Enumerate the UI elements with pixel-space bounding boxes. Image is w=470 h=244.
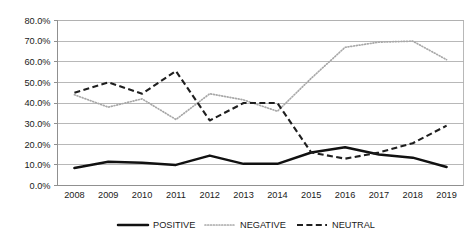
y-axis-tick-label: 50.0%: [24, 78, 50, 88]
legend-label: NEUTRAL: [332, 220, 375, 230]
chart-canvas: 0.0%10.0%20.0%30.0%40.0%50.0%60.0%70.0%8…: [0, 0, 470, 244]
x-axis-tick-label: 2012: [200, 190, 220, 200]
line-chart: 0.0%10.0%20.0%30.0%40.0%50.0%60.0%70.0%8…: [0, 0, 470, 244]
series-line-negative: [74, 41, 446, 119]
y-axis-tick-label: 0.0%: [30, 181, 51, 191]
y-axis-tick-marks: [54, 21, 58, 186]
gridlines: [58, 21, 464, 165]
y-axis-tick-label: 40.0%: [24, 98, 50, 108]
x-axis-tick-label: 2009: [98, 190, 118, 200]
chart-legend: POSITIVENEGATIVENEUTRAL: [118, 220, 375, 230]
y-axis-labels: 0.0%10.0%20.0%30.0%40.0%50.0%60.0%70.0%8…: [24, 16, 50, 191]
x-axis-tick-label: 2011: [166, 190, 186, 200]
y-axis-tick-label: 60.0%: [24, 57, 50, 67]
x-axis-tick-label: 2010: [132, 190, 152, 200]
legend-label: NEGATIVE: [240, 220, 286, 230]
y-axis-tick-label: 70.0%: [24, 36, 50, 46]
x-axis-tick-label: 2014: [267, 190, 287, 200]
legend-item-neutral[interactable]: NEUTRAL: [297, 220, 375, 230]
x-axis-tick-label: 2008: [64, 190, 84, 200]
x-axis-labels: 2008200920102011201220132014201520162017…: [64, 190, 457, 200]
series-line-neutral: [74, 71, 446, 159]
y-axis-tick-label: 20.0%: [24, 140, 50, 150]
y-axis-tick-label: 30.0%: [24, 119, 50, 129]
x-axis-tick-label: 2016: [335, 190, 355, 200]
legend-label: POSITIVE: [153, 220, 195, 230]
x-axis-tick-label: 2018: [403, 190, 423, 200]
data-series: [74, 41, 446, 168]
x-axis-tick-label: 2017: [369, 190, 389, 200]
y-axis-tick-label: 80.0%: [24, 16, 50, 26]
x-axis-tick-label: 2013: [233, 190, 253, 200]
y-axis-tick-label: 10.0%: [24, 160, 50, 170]
x-axis-tick-label: 2015: [301, 190, 321, 200]
legend-item-positive[interactable]: POSITIVE: [118, 220, 195, 230]
legend-item-negative[interactable]: NEGATIVE: [205, 220, 286, 230]
x-axis-tick-label: 2019: [436, 190, 456, 200]
